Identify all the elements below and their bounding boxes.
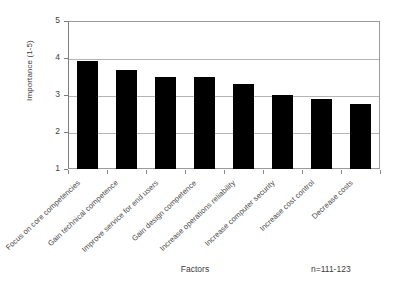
x-tick-mark xyxy=(224,170,225,174)
bar xyxy=(116,70,137,169)
y-axis-title: Importance (1-5) xyxy=(25,11,34,131)
bar xyxy=(77,61,98,169)
x-tick-mark xyxy=(107,170,108,174)
x-category-label: Focus on core competencies xyxy=(4,178,82,252)
bar xyxy=(233,84,254,169)
y-tick-label: 4 xyxy=(38,53,60,62)
x-tick-mark xyxy=(146,170,147,174)
bar xyxy=(350,104,371,169)
y-tick-label: 3 xyxy=(38,90,60,99)
x-category-label: Increase operations reliability xyxy=(158,178,237,253)
x-tick-mark xyxy=(341,170,342,174)
x-tick-mark xyxy=(263,170,264,174)
bar xyxy=(155,77,176,170)
x-tick-mark xyxy=(68,170,69,174)
bar xyxy=(272,95,293,169)
x-tick-mark xyxy=(380,170,381,174)
x-category-label: Improve service for end users xyxy=(79,178,159,254)
x-category-label: Gain design competence xyxy=(130,178,198,243)
bar xyxy=(194,77,215,169)
sample-size-annotation: n=111-123 xyxy=(311,264,351,274)
y-tick-label: 1 xyxy=(38,164,60,173)
x-axis-title: Factors xyxy=(150,264,240,274)
x-category-label: Decrease costs xyxy=(310,178,355,221)
x-category-label: Increase computer security xyxy=(203,178,277,248)
bar xyxy=(311,99,332,169)
bar-chart-figure: Importance (1-5) 12345 Focus on core com… xyxy=(0,0,412,291)
bar-series xyxy=(68,21,380,169)
x-category-label: Gain technical competence xyxy=(46,179,120,249)
x-tick-mark xyxy=(185,170,186,174)
x-tick-mark xyxy=(302,170,303,174)
y-tick-label: 5 xyxy=(38,16,60,25)
y-tick-label: 2 xyxy=(38,127,60,136)
